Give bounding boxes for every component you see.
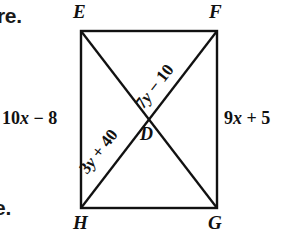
left-variable: x (20, 108, 29, 128)
vertex-label-g: G (208, 212, 222, 234)
side-label-right-fg: 9x + 5 (224, 108, 270, 129)
vertex-label-e: E (73, 1, 86, 23)
vertex-label-f: F (209, 1, 222, 23)
left-coefficient: 10 (2, 108, 20, 128)
vertex-label-h: H (73, 212, 88, 234)
right-constant: 5 (261, 108, 270, 128)
right-variable: x (233, 108, 242, 128)
side-label-left-eh: 10x − 8 (2, 108, 57, 129)
vertex-label-d-intersection: D (140, 124, 153, 145)
right-operator: + (242, 108, 261, 128)
left-constant: 8 (48, 108, 57, 128)
left-operator: − (29, 108, 48, 128)
geometry-figure: re. e. E F H G D 10x − 8 9x + 5 7y − 10 … (0, 0, 285, 243)
right-coefficient: 9 (224, 108, 233, 128)
